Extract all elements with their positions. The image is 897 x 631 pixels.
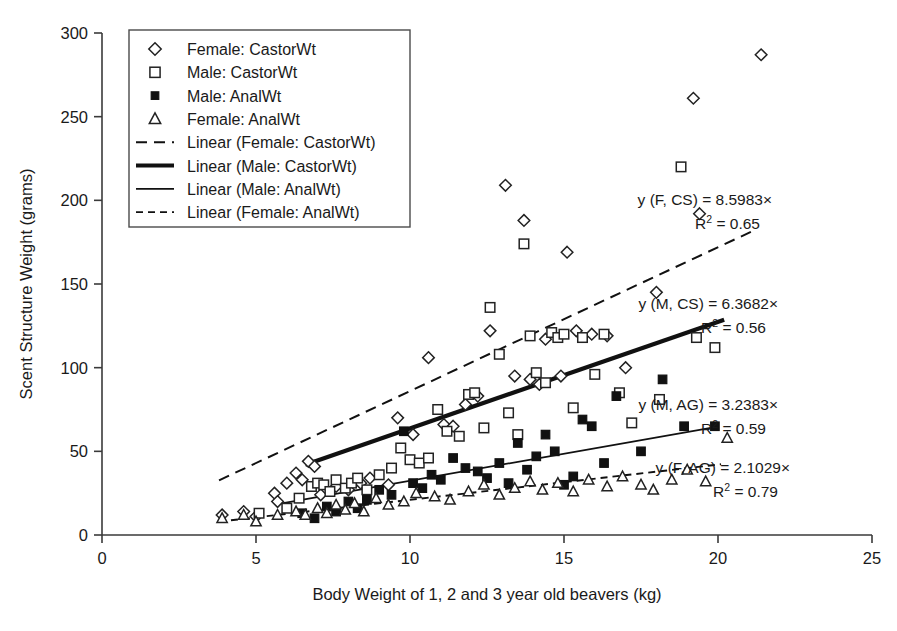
data-point [387, 491, 396, 500]
data-point [599, 329, 609, 339]
data-point [692, 333, 702, 343]
data-point [470, 388, 480, 398]
data-point [495, 459, 504, 468]
data-point [374, 470, 384, 480]
data-point [658, 375, 667, 384]
data-point [541, 378, 551, 388]
y-tick-label: 150 [60, 275, 88, 293]
data-point [281, 477, 293, 489]
legend-label: Linear (Male: AnalWt) [187, 181, 341, 198]
data-point [423, 352, 435, 364]
data-point [387, 463, 397, 473]
y-tick-label: 200 [60, 191, 88, 209]
x-axis-title: Body Weight of 1, 2 and 3 year old beave… [312, 585, 661, 603]
data-point [532, 368, 542, 378]
data-point [648, 484, 658, 494]
data-point [532, 452, 541, 461]
data-point [325, 487, 335, 497]
x-tick-label: 25 [863, 549, 881, 567]
data-point [362, 485, 372, 495]
x-tick-label: 10 [401, 549, 419, 567]
x-tick-label: 15 [555, 549, 573, 567]
data-point [363, 496, 372, 505]
r-squared-line: R2 = 0.56 [701, 317, 766, 336]
data-point [710, 343, 720, 353]
data-point [620, 362, 632, 374]
data-point [424, 453, 434, 463]
data-point [463, 486, 473, 496]
legend-label: Male: CastorWt [187, 64, 298, 81]
y-tick-label: 100 [60, 359, 88, 377]
y-tick-label: 50 [70, 442, 88, 460]
y-tick-label: 250 [60, 108, 88, 126]
data-point [537, 484, 547, 494]
data-point [568, 403, 578, 413]
data-point [555, 370, 567, 382]
y-tick-label: 300 [60, 24, 88, 42]
data-point [392, 412, 404, 424]
data-point [312, 503, 322, 513]
equation-line: y (M, CS) = 6.3682× [638, 295, 778, 312]
data-point [688, 92, 700, 104]
data-point [433, 405, 443, 415]
data-point [414, 458, 424, 468]
data-point [600, 459, 609, 468]
scatter-plot: 0510152025050100150200250300Body Weight … [0, 0, 897, 631]
data-point [568, 486, 578, 496]
data-point [590, 370, 600, 380]
equation-line: y (F, AG) = 2.1029× [656, 459, 790, 476]
data-point [550, 447, 559, 456]
chart-figure: 0510152025050100150200250300Body Weight … [0, 0, 897, 631]
data-point [578, 415, 587, 424]
data-point [525, 476, 535, 486]
x-tick-label: 0 [97, 549, 106, 567]
legend-label: Male: AnalWt [187, 88, 282, 105]
data-point [479, 423, 489, 433]
data-point [400, 427, 409, 436]
data-point [437, 476, 446, 485]
data-point [523, 465, 532, 474]
series-group [217, 433, 732, 526]
x-tick-label: 5 [251, 549, 260, 567]
data-point [485, 303, 495, 313]
data-point [680, 422, 689, 431]
legend-label: Female: CastorWt [187, 41, 316, 58]
data-point [418, 484, 427, 493]
r-squared-line: R2 = 0.79 [713, 481, 778, 500]
data-point [513, 430, 523, 440]
data-point [383, 479, 395, 491]
data-point [541, 430, 550, 439]
data-point [561, 246, 573, 258]
data-point [405, 455, 415, 465]
r-squared-line: R2 = 0.65 [695, 213, 760, 232]
data-point [701, 476, 711, 486]
y-axis-title: Scent Structure Weight (grams) [17, 169, 35, 400]
data-point [637, 447, 646, 456]
data-point [331, 475, 341, 485]
data-point [353, 473, 363, 483]
data-point [509, 370, 521, 382]
data-point [504, 479, 513, 488]
data-point [310, 514, 319, 523]
legend-marker-icon [150, 67, 160, 77]
data-point [587, 422, 596, 431]
data-point [495, 350, 505, 360]
legend-label: Linear (Male: CastorWt) [187, 158, 357, 175]
data-point [461, 464, 470, 473]
data-point [612, 392, 621, 401]
data-point [569, 472, 578, 481]
data-point [627, 418, 637, 428]
legend-label: Female: AnalWt [187, 111, 300, 128]
data-point [525, 331, 535, 341]
data-point [409, 479, 418, 488]
data-point [449, 454, 458, 463]
data-point [282, 503, 292, 513]
equation-line: y (M, AG) = 3.2383× [638, 396, 778, 413]
data-point [578, 333, 588, 343]
equation-line: y (F, CS) = 8.5983× [638, 191, 772, 208]
data-point [455, 432, 465, 442]
data-point [602, 481, 612, 491]
data-point [500, 179, 512, 191]
data-point [636, 479, 646, 489]
legend: Female: CastorWtMale: CastorWtMale: Anal… [129, 30, 410, 227]
